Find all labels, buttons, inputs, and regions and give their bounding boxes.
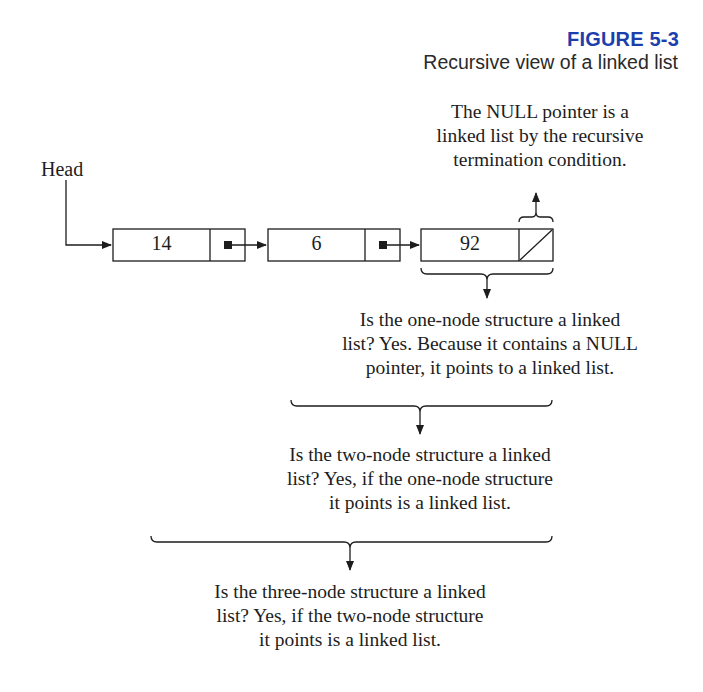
two-node-brace	[291, 400, 552, 412]
note-line: list? Yes, if the two-node structure	[160, 604, 540, 628]
two-node-note: Is the two-node structure a linked list?…	[230, 443, 610, 515]
note-line: list? Yes. Because it contains a NULL	[300, 332, 680, 356]
one-node-brace	[421, 268, 553, 280]
null-brace	[519, 212, 553, 222]
node-3-value: 92	[421, 232, 519, 255]
note-line: Is the two-node structure a linked	[230, 443, 610, 467]
note-line: it points is a linked list.	[160, 628, 540, 652]
pointer-dot-2	[379, 241, 387, 249]
node-2-value: 6	[268, 232, 365, 255]
note-line: pointer, it points to a linked list.	[300, 356, 680, 380]
head-arrow	[66, 180, 111, 245]
node-1-value: 14	[113, 232, 210, 255]
one-node-note: Is the one-node structure a linked list?…	[300, 308, 680, 380]
note-line: Is the three-node structure a linked	[160, 580, 540, 604]
pointer-dot-1	[224, 241, 232, 249]
note-line: Is the one-node structure a linked	[300, 308, 680, 332]
note-line: it points is a linked list.	[230, 491, 610, 515]
three-node-note: Is the three-node structure a linked lis…	[160, 580, 540, 652]
three-node-brace	[151, 536, 552, 548]
note-line: list? Yes, if the one-node structure	[230, 467, 610, 491]
